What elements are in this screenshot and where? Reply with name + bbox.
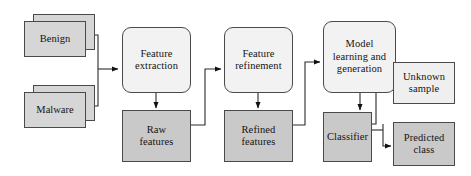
node-model-learning[interactable]: Model learning and generation (323, 21, 396, 93)
node-predicted-class-label-line2: class (402, 144, 447, 157)
node-feature-extraction-label-line1: Feature (133, 48, 180, 61)
node-malware[interactable]: Malware (24, 85, 95, 128)
node-predicted-class[interactable]: Predicted class (393, 122, 455, 166)
node-model-learning-label-line2: learning and (331, 51, 388, 64)
node-feature-refinement-label-line2: refinement (233, 60, 283, 73)
node-predicted-class-label-line1: Predicted (402, 132, 447, 145)
node-raw-features-label-line1: Raw (137, 124, 175, 137)
node-benign[interactable]: Benign (24, 14, 95, 57)
edge-classifier-to-predicted (383, 124, 391, 146)
malware-stack-front-sheet: Malware (24, 92, 86, 128)
node-classifier[interactable]: Classifier (323, 112, 372, 162)
node-raw-features-label-line2: features (137, 136, 175, 149)
node-raw-features[interactable]: Raw features (122, 110, 191, 162)
node-feature-refinement[interactable]: Feature refinement (224, 27, 293, 93)
node-malware-label: Malware (34, 104, 75, 117)
node-unknown-sample-label-line1: Unknown (401, 71, 447, 84)
node-feature-extraction[interactable]: Feature extraction (122, 27, 191, 93)
node-model-learning-label-line1: Model (331, 38, 388, 51)
edge-refined-to-model (293, 62, 320, 125)
node-feature-extraction-label-line2: extraction (133, 60, 180, 73)
node-model-learning-label-line3: generation (331, 63, 388, 76)
node-classifier-label: Classifier (325, 131, 370, 144)
node-unknown-sample-label-line2: sample (401, 83, 447, 96)
node-refined-features[interactable]: Refined features (224, 110, 293, 162)
node-refined-features-label-line1: Refined (239, 124, 277, 137)
node-benign-label: Benign (38, 33, 72, 46)
benign-stack-front-sheet: Benign (24, 21, 86, 57)
flowchart-diagram: Benign Malware Feature extraction Raw fe… (0, 0, 471, 176)
node-feature-refinement-label-line1: Feature (233, 48, 283, 61)
edge-raw-to-refinement (191, 69, 221, 125)
node-refined-features-label-line2: features (239, 136, 277, 149)
node-unknown-sample[interactable]: Unknown sample (393, 62, 455, 104)
